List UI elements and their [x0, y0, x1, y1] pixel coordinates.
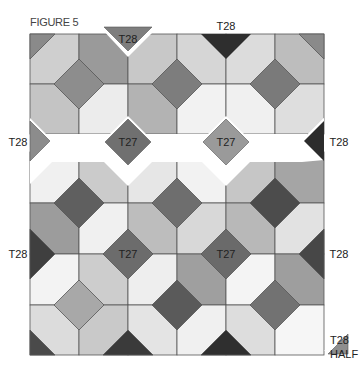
t28-top-left-label: T28 [119, 33, 138, 45]
t28-left-mid-label: T28 [9, 136, 28, 148]
lower-block-section [30, 152, 324, 355]
t28-half-label-line2: HALF [330, 348, 358, 360]
t27-lower-left-label: T27 [119, 248, 138, 260]
t28-right-mid-label: T28 [330, 136, 349, 148]
t27-sash-right-label: T27 [217, 136, 236, 148]
t28-half-label-line1: T28 [330, 334, 349, 346]
t27-sash-left-label: T27 [119, 136, 138, 148]
t28-top-right-label: T28 [217, 20, 236, 32]
t27-lower-right-label: T27 [217, 248, 236, 260]
t28-right-lower-label: T28 [330, 248, 349, 260]
top-block-section [30, 34, 324, 134]
quilt-diagram: T28 T28 [0, 0, 364, 373]
t28-left-lower-label: T28 [9, 248, 28, 260]
